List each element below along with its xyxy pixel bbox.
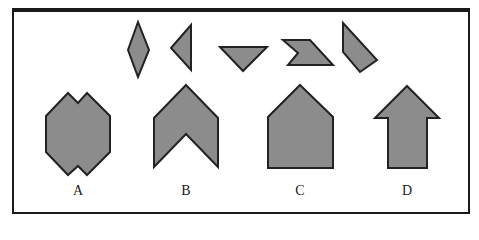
option-c-label: C xyxy=(285,183,315,199)
option-d-shape xyxy=(375,86,439,168)
option-c-shape xyxy=(268,85,333,168)
piece-down-triangle xyxy=(220,47,267,71)
pieces-row xyxy=(128,22,377,77)
option-a-label: A xyxy=(63,183,93,199)
piece-slanted-quadrilateral xyxy=(343,23,377,72)
option-b-label: B xyxy=(171,183,201,199)
option-b-shape xyxy=(154,85,218,167)
piece-left-triangle xyxy=(171,25,191,70)
piece-diamond xyxy=(128,22,149,77)
piece-notched-parallelogram xyxy=(283,40,333,65)
option-a-shape xyxy=(46,93,110,175)
options-row xyxy=(46,85,439,175)
option-d-label: D xyxy=(392,183,422,199)
